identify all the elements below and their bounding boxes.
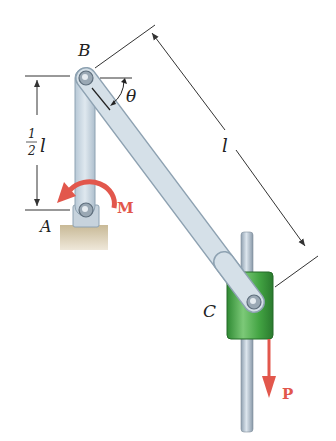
load-arrow — [262, 339, 276, 398]
pin-c — [247, 295, 261, 309]
pin-b — [79, 71, 93, 85]
label-l: l — [222, 135, 228, 156]
mechanism-diagram: B θ l 1 2 l A M C P — [0, 0, 336, 441]
label-a: A — [38, 217, 52, 236]
pin-a — [79, 203, 93, 217]
label-m: M — [117, 199, 134, 217]
label-p: P — [282, 385, 293, 403]
label-half-var: l — [40, 135, 46, 156]
label-half-num: 1 — [28, 127, 36, 141]
label-b: B — [77, 40, 91, 60]
label-half-den: 2 — [27, 144, 36, 158]
label-c: C — [203, 301, 216, 321]
label-theta: θ — [126, 86, 136, 106]
